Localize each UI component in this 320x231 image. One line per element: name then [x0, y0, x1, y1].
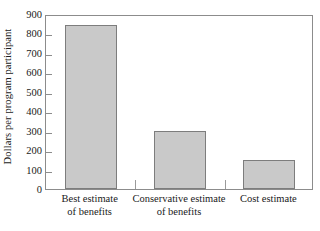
y-tick-label: 900 — [26, 10, 42, 21]
bar — [154, 131, 206, 189]
x-category-label-line1: Best estimate — [62, 193, 118, 204]
plot-area — [45, 15, 313, 190]
bar — [243, 160, 295, 189]
y-tick-label: 200 — [26, 146, 42, 157]
y-tick-label: 700 — [26, 49, 42, 60]
x-category-label: Cost estimate — [216, 192, 320, 205]
y-axis-tick-labels: 0100200300400500600700800900 — [16, 15, 45, 190]
y-tick-label: 500 — [26, 88, 42, 99]
y-tick-label: 300 — [26, 126, 42, 137]
x-axis-category-labels: Best estimateof benefitsConservative est… — [45, 192, 313, 231]
x-category-label-line2: of benefits — [126, 205, 231, 218]
bars-group — [46, 16, 312, 189]
y-tick-label: 800 — [26, 29, 42, 40]
x-category-label-line1: Cost estimate — [240, 193, 297, 204]
y-tick-label: 400 — [26, 107, 42, 118]
y-axis-title-text: Dollars per program participant — [3, 28, 14, 164]
y-tick-label: 100 — [26, 165, 42, 176]
bar-chart: Dollars per program participant 01002003… — [0, 0, 320, 231]
y-axis-title: Dollars per program participant — [0, 0, 16, 192]
bar — [65, 25, 117, 189]
x-category-label-line1: Conservative estimate — [132, 193, 225, 204]
y-tick-label: 600 — [26, 68, 42, 79]
